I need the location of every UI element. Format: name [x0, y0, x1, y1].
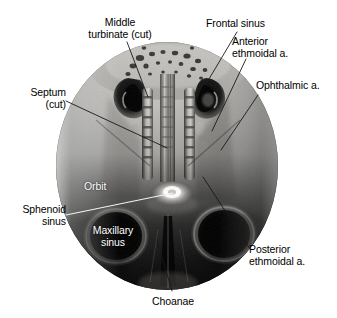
leader-posterior-ethmoidal-a — [203, 177, 250, 249]
label-septum: Septum (cut) — [4, 86, 66, 110]
label-anterior-ethmoidal-a: Anterior ethmoidal a. — [232, 35, 328, 59]
label-ophthalmic-a: Ophthalmic a. — [256, 79, 337, 91]
leader-middle-turbinate — [127, 42, 148, 97]
leader-septum — [66, 101, 167, 148]
label-posterior-ethmoidal-a: Posterior ethmoidal a. — [249, 243, 337, 267]
leader-choanae — [157, 240, 172, 291]
leader-ophthalmic-a — [221, 95, 258, 150]
label-middle-turbinate: Middle turbinate (cut) — [58, 16, 182, 40]
label-orbit: Orbit — [84, 180, 124, 192]
leader-sphenoid-sinus — [66, 193, 173, 215]
anatomical-figure: Middle turbinate (cut) Frontal sinus Ant… — [0, 0, 337, 318]
label-frontal-sinus: Frontal sinus — [206, 17, 296, 29]
label-maxillary-sinus: Maxillary sinus — [78, 224, 148, 248]
label-choanae: Choanae — [143, 295, 203, 307]
label-sphenoid-sinus: Sphenoid sinus — [2, 203, 66, 227]
